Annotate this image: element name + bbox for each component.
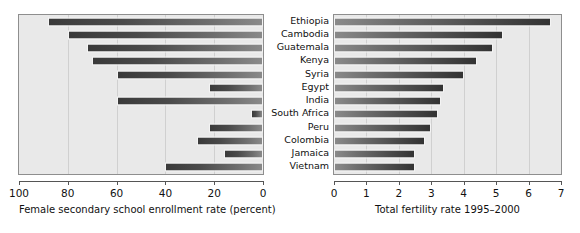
axis-tick-label: 7 — [558, 187, 565, 199]
axis-tick-label: 80 — [61, 187, 74, 199]
bar-row — [334, 15, 561, 28]
bar — [334, 150, 415, 159]
bar — [251, 110, 263, 119]
country-label: Cambodia — [264, 29, 329, 39]
bar — [334, 30, 503, 39]
axis-tick-label: 5 — [493, 187, 500, 199]
left-chart-x-axis-title: Female secondary school enrollment rate … — [19, 204, 263, 215]
axis-tick-label: 4 — [460, 187, 467, 199]
bar — [209, 83, 263, 92]
bar-row — [334, 55, 561, 68]
bar — [334, 70, 464, 79]
bar-row — [334, 108, 561, 121]
country-label: Jamaica — [264, 148, 329, 158]
bar — [334, 44, 493, 53]
axis-tick — [263, 181, 264, 185]
country-label: Syria — [264, 69, 329, 79]
bar-row — [334, 121, 561, 134]
bar — [334, 57, 477, 66]
bar-row — [334, 95, 561, 108]
country-label: Vietnam — [264, 161, 329, 171]
bar-row — [19, 55, 263, 68]
bar-row — [19, 121, 263, 134]
bar-row — [334, 81, 561, 94]
axis-tick — [117, 181, 118, 185]
axis-tick — [19, 181, 20, 185]
country-label: Peru — [264, 122, 329, 132]
axis-tick-label: 1 — [363, 187, 370, 199]
axis-line — [334, 181, 561, 182]
bar — [92, 57, 263, 66]
bar-row — [19, 28, 263, 41]
country-label-column: EthiopiaCambodiaGuatemalaKenyaSyriaEgypt… — [264, 14, 333, 175]
bar — [334, 136, 425, 145]
axis-tick — [399, 181, 400, 185]
bar — [68, 30, 263, 39]
country-label: Kenya — [264, 55, 329, 65]
country-label: Guatemala — [264, 42, 329, 52]
bar — [334, 83, 444, 92]
bar-row — [19, 108, 263, 121]
axis-tick-label: 2 — [396, 187, 403, 199]
axis-tick — [214, 181, 215, 185]
bar-row — [19, 81, 263, 94]
bar-row — [334, 148, 561, 161]
axis-tick — [431, 181, 432, 185]
axis-tick-label: 6 — [525, 187, 532, 199]
axis-tick — [68, 181, 69, 185]
axis-tick-label: 3 — [428, 187, 435, 199]
right-chart-x-axis-title: Total fertility rate 1995–2000 — [334, 204, 561, 215]
axis-tick-label: 100 — [9, 187, 29, 199]
bar — [117, 97, 263, 106]
left-chart-plot-area — [18, 14, 264, 175]
bar-row — [19, 68, 263, 81]
bar-row — [334, 42, 561, 55]
bar-row — [19, 161, 263, 174]
bar-row — [19, 95, 263, 108]
axis-tick — [529, 181, 530, 185]
bar — [334, 163, 415, 172]
axis-tick — [561, 181, 562, 185]
bar-row — [19, 148, 263, 161]
axis-tick-label: 0 — [260, 187, 267, 199]
country-label: South Africa — [264, 108, 329, 118]
country-label: India — [264, 95, 329, 105]
axis-tick — [165, 181, 166, 185]
bar-row — [334, 161, 561, 174]
bar-row — [334, 134, 561, 147]
bar — [224, 150, 263, 159]
bar — [197, 136, 263, 145]
axis-tick — [464, 181, 465, 185]
bar — [117, 70, 263, 79]
bar — [87, 44, 263, 53]
right-chart-plot-area — [333, 14, 562, 175]
left-chart-bars — [19, 15, 263, 174]
bar-row — [334, 68, 561, 81]
axis-tick-label: 40 — [159, 187, 172, 199]
bar — [334, 123, 431, 132]
bar-row — [19, 15, 263, 28]
axis-line — [19, 181, 263, 182]
country-label: Egypt — [264, 82, 329, 92]
bar-row — [334, 28, 561, 41]
bar — [334, 97, 441, 106]
bar-row — [19, 134, 263, 147]
axis-tick — [496, 181, 497, 185]
axis-tick-label: 60 — [110, 187, 123, 199]
bar — [48, 17, 263, 26]
bar — [334, 110, 438, 119]
bar — [334, 17, 551, 26]
axis-tick-label: 0 — [331, 187, 338, 199]
bar — [165, 163, 263, 172]
axis-tick-label: 20 — [208, 187, 221, 199]
chart-figure: EthiopiaCambodiaGuatemalaKenyaSyriaEgypt… — [0, 0, 580, 233]
axis-tick — [366, 181, 367, 185]
country-label: Ethiopia — [264, 16, 329, 26]
axis-tick — [334, 181, 335, 185]
bar-row — [19, 42, 263, 55]
right-chart-bars — [334, 15, 561, 174]
country-label: Colombia — [264, 135, 329, 145]
bar — [209, 123, 263, 132]
